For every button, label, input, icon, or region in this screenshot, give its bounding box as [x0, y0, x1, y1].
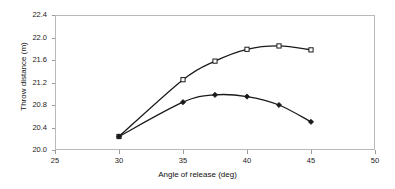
data-point-diamond-marker — [276, 102, 281, 107]
x-axis-tick-label: 25 — [40, 156, 70, 165]
y-axis-tick-label: 22.0 — [32, 34, 47, 42]
x-axis-tick-mark — [375, 150, 376, 154]
data-point-diamond-marker — [308, 119, 313, 124]
data-point-square-marker — [309, 48, 313, 52]
x-axis-tick-mark — [183, 150, 184, 154]
data-point-square-marker — [277, 44, 281, 48]
plot-series-canvas — [55, 15, 375, 150]
y-axis-tick-label: 21.2 — [32, 79, 47, 87]
y-axis-tick-label: 21.6 — [32, 56, 47, 64]
x-axis-tick-mark — [119, 150, 120, 154]
x-axis-tick-label: 35 — [168, 156, 198, 165]
x-axis-tick-label: 50 — [360, 156, 390, 165]
y-axis-tick-mark — [52, 105, 55, 106]
data-point-diamond-marker — [244, 94, 249, 99]
y-axis-tick-label: 22.4 — [32, 11, 47, 19]
y-axis-title: Throw distance (m) — [19, 7, 28, 147]
x-axis-tick-mark — [311, 150, 312, 154]
x-axis-title: Angle of release (deg) — [0, 170, 395, 179]
series-line — [119, 95, 311, 137]
data-point-diamond-marker — [212, 92, 217, 97]
y-axis-tick-mark — [52, 15, 55, 16]
x-axis-tick-label: 40 — [232, 156, 262, 165]
data-point-diamond-marker — [180, 100, 185, 105]
y-axis-tick-label: 20.4 — [32, 124, 47, 132]
y-axis-tick-mark — [52, 60, 55, 61]
y-axis-tick-label: 20.0 — [32, 146, 47, 154]
chart-container: 20.020.420.821.221.622.022.4 Throw dista… — [0, 0, 395, 189]
data-point-square-marker — [245, 47, 249, 51]
y-axis-tick-mark — [52, 38, 55, 39]
x-axis-tick-mark — [247, 150, 248, 154]
x-axis-tick-label: 45 — [296, 156, 326, 165]
series-upper-series — [117, 44, 313, 139]
y-axis-tick-mark — [52, 128, 55, 129]
x-axis-tick-label: 30 — [104, 156, 134, 165]
data-point-square-marker — [213, 59, 217, 63]
y-axis-tick-mark — [52, 83, 55, 84]
x-axis-tick-mark — [55, 150, 56, 154]
series-lower-series — [116, 92, 313, 139]
data-point-square-marker — [181, 78, 185, 82]
y-axis-tick-label: 20.8 — [32, 101, 47, 109]
